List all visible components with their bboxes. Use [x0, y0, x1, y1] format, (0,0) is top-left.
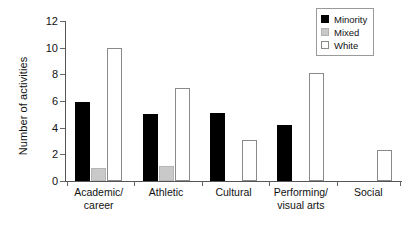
- legend-swatch-minority-icon: [321, 15, 329, 23]
- y-tick-label: 4: [52, 122, 58, 134]
- legend-swatch-mixed-icon: [321, 28, 329, 36]
- bar-white-2: [242, 140, 257, 181]
- y-tick-label: 0: [52, 175, 58, 187]
- x-axis-label-line: Social: [335, 186, 402, 199]
- bar-minority-1: [143, 114, 158, 181]
- legend-swatch-white-icon: [321, 41, 329, 49]
- bar-mixed-1: [159, 166, 174, 181]
- y-tick-label: 10: [46, 42, 58, 54]
- x-axis-label-line: career: [65, 199, 132, 212]
- bar-minority-3: [277, 125, 292, 181]
- x-axis-label-4: Social: [335, 186, 402, 199]
- legend-item-mixed[interactable]: Mixed: [321, 26, 367, 38]
- x-axis-label-line: Performing/: [267, 186, 334, 199]
- y-tick-label: 12: [46, 15, 58, 27]
- y-tick-mark: [60, 181, 65, 182]
- legend-item-minority[interactable]: Minority: [321, 13, 367, 25]
- bar-mixed-0: [91, 168, 106, 181]
- y-tick-label: 2: [52, 148, 58, 160]
- x-axis-label-0: Academic/career: [65, 186, 132, 211]
- legend-label: Minority: [334, 14, 367, 25]
- legend-item-white[interactable]: White: [321, 39, 367, 51]
- x-axis-label-line: Cultural: [200, 186, 267, 199]
- y-axis-title: Number of activities: [17, 31, 29, 181]
- x-axis-label-3: Performing/visual arts: [267, 186, 334, 211]
- bar-chart: Number of activities 024681012 Academic/…: [0, 0, 414, 232]
- legend-label: Mixed: [334, 27, 359, 38]
- x-axis-line: [65, 181, 402, 182]
- x-axis-label-line: visual arts: [267, 199, 334, 212]
- legend-label: White: [334, 40, 358, 51]
- x-axis-label-2: Cultural: [200, 186, 267, 199]
- x-axis-label-line: Athletic: [132, 186, 199, 199]
- x-axis-category-labels: Academic/careerAthleticCulturalPerformin…: [65, 186, 402, 228]
- bar-minority-0: [75, 102, 90, 181]
- bar-white-0: [107, 48, 122, 181]
- bar-white-4: [377, 150, 392, 181]
- x-axis-label-line: Academic/: [65, 186, 132, 199]
- y-tick-label: 8: [52, 68, 58, 80]
- bar-white-3: [309, 73, 324, 181]
- bar-minority-2: [210, 113, 225, 181]
- bar-white-1: [175, 88, 190, 181]
- chart-legend: MinorityMixedWhite: [316, 8, 374, 56]
- x-axis-label-1: Athletic: [132, 186, 199, 199]
- y-tick-label: 6: [52, 95, 58, 107]
